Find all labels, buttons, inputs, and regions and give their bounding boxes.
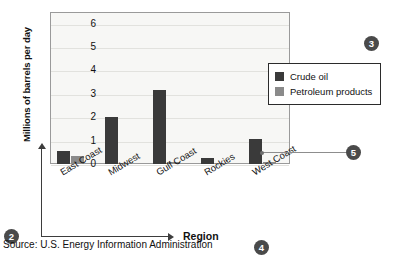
bar-gulf-coast-crude-oil (153, 90, 166, 164)
legend-item-crude-oil: Crude oil (275, 69, 372, 84)
bars-layer (50, 12, 290, 164)
bar-midwest-crude-oil (105, 117, 118, 164)
source-note: Source: U.S. Energy Information Administ… (3, 239, 213, 250)
callout-marker-5[interactable]: 5 (346, 145, 361, 160)
y-axis-arrow (41, 148, 42, 236)
callout-marker-3[interactable]: 3 (364, 36, 379, 51)
legend-swatch-petroleum-products (275, 87, 284, 96)
legend-label-petroleum-products: Petroleum products (290, 86, 372, 97)
legend-item-petroleum-products: Petroleum products (275, 84, 372, 99)
chart-legend: Crude oil Petroleum products (268, 63, 381, 105)
callout-marker-4[interactable]: 4 (254, 240, 269, 255)
y-axis-title: Millions of barrels per day (21, 10, 32, 160)
x-axis-arrow (41, 236, 169, 237)
callout-leader-5 (262, 152, 346, 153)
legend-swatch-crude-oil (275, 72, 284, 81)
legend-label-crude-oil: Crude oil (290, 71, 328, 82)
bar-chart-figure: Millions of barrels per day 0123456 East… (0, 0, 398, 255)
